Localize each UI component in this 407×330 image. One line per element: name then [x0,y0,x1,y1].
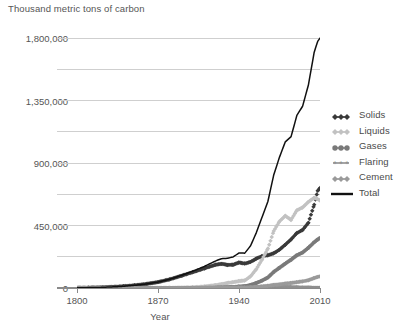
asterisk-gray-icon: *** [330,155,354,167]
x-axis-tick-marks [77,288,320,293]
gridlines [57,38,320,257]
legend-label: Flaring [359,156,389,167]
legend-label: Total [359,187,380,198]
x-tick-1940: 1940 [228,295,249,306]
circle-dark-icon [330,140,354,152]
x-tick-2010: 2010 [309,295,330,306]
legend-item-cement[interactable]: Cement [330,169,393,185]
legend-label: Gases [359,140,387,151]
co2-emissions-chart: Thousand metric tons of carbon 0450,0009… [0,0,407,330]
legend-label: Liquids [359,125,390,136]
legend-label: Solids [359,109,385,120]
legend-item-solids[interactable]: Solids [330,107,393,123]
diamond-light-icon [330,124,354,136]
data-series [75,38,322,290]
legend-item-liquids[interactable]: Liquids [330,123,393,139]
line-black-icon [330,186,354,198]
x-axis-label: Year [0,311,320,322]
legend-item-flaring[interactable]: ***Flaring [330,154,393,170]
diamond-gray-icon [330,171,354,183]
x-tick-1800: 1800 [66,295,87,306]
series-solids [75,186,322,290]
legend-item-total[interactable]: Total [330,185,393,201]
chart-legend: SolidsLiquidsGases***FlaringCementTotal [330,107,393,200]
diamond-dark-icon [330,109,354,121]
legend-item-gases[interactable]: Gases [330,138,393,154]
legend-label: Cement [359,171,393,182]
x-tick-1870: 1870 [147,295,168,306]
